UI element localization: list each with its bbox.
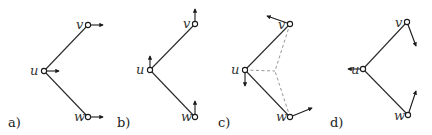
node-u [41, 68, 46, 73]
node-label-w: w [181, 109, 192, 124]
node-u [147, 67, 152, 72]
panel-a: uvwa) [8, 17, 103, 130]
vector-arrow-w [290, 108, 312, 117]
node-label-v: v [278, 17, 286, 32]
panel-label: a) [8, 115, 21, 130]
panel-label: b) [117, 115, 130, 130]
node-v [287, 21, 292, 26]
node-label-u: u [30, 63, 38, 78]
node-label-w: w [276, 109, 287, 124]
node-w [287, 114, 292, 119]
panel-label: c) [218, 115, 230, 130]
node-label-v: v [76, 17, 84, 32]
node-label-w: w [74, 109, 85, 124]
node-u [360, 66, 365, 71]
node-label-v: v [395, 15, 403, 30]
node-v [192, 21, 197, 26]
node-u [242, 67, 247, 72]
panel-c: uvwc) [218, 16, 312, 130]
panel-b: uvwb) [117, 9, 198, 130]
dashed-line-u-center [245, 70, 275, 71]
node-label-u: u [231, 62, 239, 77]
node-w [192, 114, 197, 119]
node-label-w: w [394, 108, 405, 123]
node-v [85, 22, 90, 27]
panel-d: uvwd) [330, 15, 416, 130]
node-label-v: v [183, 16, 191, 31]
panel-label: d) [330, 115, 343, 130]
node-label-u: u [136, 62, 144, 77]
vector-arrow-w [408, 91, 416, 115]
node-w [85, 114, 90, 119]
node-label-u: u [351, 62, 359, 77]
node-w [405, 112, 410, 117]
node-v [404, 19, 409, 24]
vector-arrow-v [407, 22, 416, 46]
graph-diagram-canvas: uvwa)uvwb)uvwc)uvwd) [0, 0, 432, 135]
figure: uvwa)uvwb)uvwc)uvwd) [0, 0, 432, 135]
